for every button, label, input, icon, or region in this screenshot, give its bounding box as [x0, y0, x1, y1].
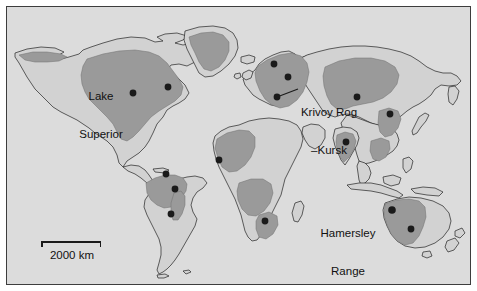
label-krivoy-rog-line1: Krivoy Rog: [287, 106, 371, 119]
locality-dot-west-africa: [216, 157, 223, 164]
land-tasmania: [422, 251, 432, 258]
locality-dot-hamersley-range: [388, 206, 396, 214]
scale-bar: 2000 km: [35, 241, 109, 261]
locality-dot-carajas: [163, 171, 170, 178]
label-krivoy-rog-kursk: Krivoy Rog –Kursk: [287, 81, 371, 181]
scale-bar-tick-left: [41, 241, 43, 247]
locality-dot-quadrilatero: [172, 186, 179, 193]
locality-dot-urucum: [168, 211, 175, 218]
land-iceland: [241, 55, 255, 64]
scale-bar-label: 2000 km: [35, 249, 109, 261]
locality-dot-krivoy-rog-kursk: [274, 94, 281, 101]
locality-dot-kostomuksha: [285, 74, 292, 81]
label-hamersley-line2: Range: [308, 265, 388, 278]
label-hamersley-range: Hamersley Range: [308, 202, 388, 285]
label-lake-superior-line1: Lake: [62, 90, 140, 103]
map-frame: Lake Superior Krivoy Rog –Kursk Hamersle…: [6, 6, 471, 285]
label-krivoy-rog-line2: –Kursk: [287, 144, 371, 157]
scale-bar-line: [41, 241, 101, 248]
label-lake-superior: Lake Superior: [62, 65, 140, 165]
locality-dot-middleback-range: [408, 226, 415, 233]
locality-dot-labrador: [165, 84, 172, 91]
locality-dot-anshan: [387, 111, 394, 118]
world-map-figure: Lake Superior Krivoy Rog –Kursk Hamersle…: [0, 0, 477, 291]
label-lake-superior-line2: Superior: [62, 128, 140, 141]
locality-dot-kiruna: [271, 61, 278, 68]
scale-bar-rule: [41, 241, 101, 243]
label-hamersley-line1: Hamersley: [308, 227, 388, 240]
locality-dot-thabazimbi: [262, 218, 269, 225]
scale-bar-tick-right: [100, 241, 102, 247]
